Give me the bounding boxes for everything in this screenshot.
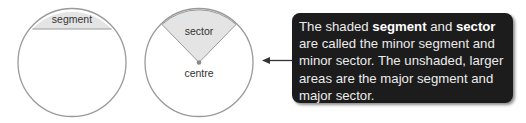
segment-circle: segment [18, 9, 126, 117]
arrow-left-icon [262, 57, 292, 64]
sector-circle: sector centre [145, 9, 253, 117]
centre-point [197, 60, 202, 65]
callout-bold-segment: segment [372, 19, 426, 34]
callout-text: are called the minor segment and minor s… [299, 36, 503, 103]
callout-text: and [427, 19, 456, 34]
centre-label: centre [184, 67, 213, 79]
segment-label: segment [52, 13, 92, 25]
sector-label: sector [185, 25, 214, 37]
callout-bold-sector: sector [456, 19, 496, 34]
callout-text: The shaded [299, 19, 372, 34]
explanation-callout: The shaded segment and sector are called… [292, 13, 513, 103]
